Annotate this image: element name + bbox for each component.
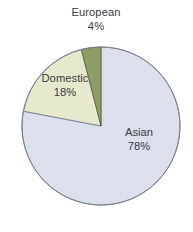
pie-label-asian-name: Asian [106, 126, 172, 140]
pie-chart-canvas [0, 0, 193, 232]
pie-chart-figure: European 4% Domestic 18% Asian 78% [0, 0, 193, 232]
pie-label-european: European 4% [46, 6, 146, 33]
pie-label-asian: Asian 78% [106, 126, 172, 153]
pie-label-domestic-name: Domestic [23, 72, 107, 86]
pie-label-domestic: Domestic 18% [23, 72, 107, 99]
pie-label-european-name: European [46, 6, 146, 20]
pie-label-european-value: 4% [46, 20, 146, 34]
pie-label-asian-value: 78% [106, 140, 172, 154]
pie-label-domestic-value: 18% [23, 86, 107, 100]
